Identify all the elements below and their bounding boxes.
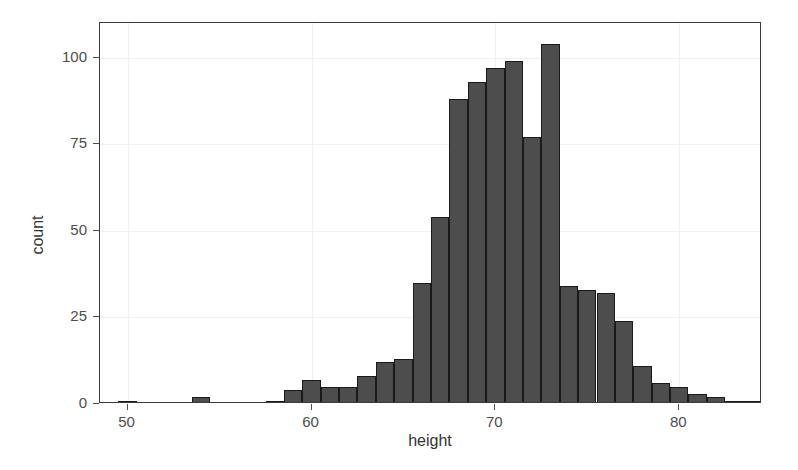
y-axis-tick-label: 100 [62, 48, 87, 65]
y-axis-tick-mark [93, 403, 99, 404]
histogram-bar [578, 290, 596, 403]
histogram-bar [376, 362, 394, 403]
histogram-bar [431, 217, 449, 403]
histogram-bar [118, 401, 136, 404]
x-axis-tick-label: 80 [648, 413, 708, 430]
histogram-bar [633, 366, 651, 403]
histogram-bar [357, 376, 375, 403]
histogram-bar [339, 387, 357, 403]
histogram-bar [449, 99, 467, 403]
x-axis-tick-label: 70 [464, 413, 524, 430]
y-axis-tick-label: 75 [70, 134, 87, 151]
histogram-bar [707, 397, 725, 403]
histogram-bar [192, 397, 210, 403]
histogram-bar [744, 401, 761, 404]
histogram-bar [615, 321, 633, 403]
x-axis-tick-label: 50 [97, 413, 157, 430]
x-axis-tick-mark [311, 404, 312, 410]
y-axis-tick-mark [93, 316, 99, 317]
histogram-bar [597, 293, 615, 403]
histogram-bar [284, 390, 302, 403]
histogram-bar [688, 394, 706, 403]
histogram-bar [321, 387, 339, 403]
histogram-bar [541, 44, 559, 403]
x-axis-tick-mark [127, 404, 128, 410]
y-axis-tick-mark [93, 143, 99, 144]
histogram-bar [394, 359, 412, 403]
x-axis-title: height [99, 432, 761, 450]
histogram-bar [652, 383, 670, 403]
x-axis-tick-mark [678, 404, 679, 410]
histogram-bar [302, 380, 320, 403]
histogram-bar [725, 401, 743, 404]
y-axis-tick-label: 50 [70, 221, 87, 238]
histogram-bar [505, 61, 523, 403]
plot-panel [99, 22, 761, 403]
x-axis-tick-label: 60 [280, 413, 340, 430]
histogram-bar [670, 387, 688, 403]
y-axis-tick-mark [93, 57, 99, 58]
histogram-bar [468, 82, 486, 403]
x-axis-tick-mark [494, 404, 495, 410]
histogram-bar [486, 68, 504, 403]
histogram-bars [100, 23, 760, 402]
histogram-bar [413, 283, 431, 403]
y-axis-tick-label: 0 [79, 394, 87, 411]
y-axis-tick-mark [93, 230, 99, 231]
histogram-bar [266, 401, 284, 404]
y-axis-tick-label: 25 [70, 307, 87, 324]
chart-root: 0255075100 50607080 count height [0, 0, 798, 470]
y-axis-title: count [29, 215, 47, 254]
histogram-bar [523, 137, 541, 403]
histogram-bar [560, 286, 578, 403]
